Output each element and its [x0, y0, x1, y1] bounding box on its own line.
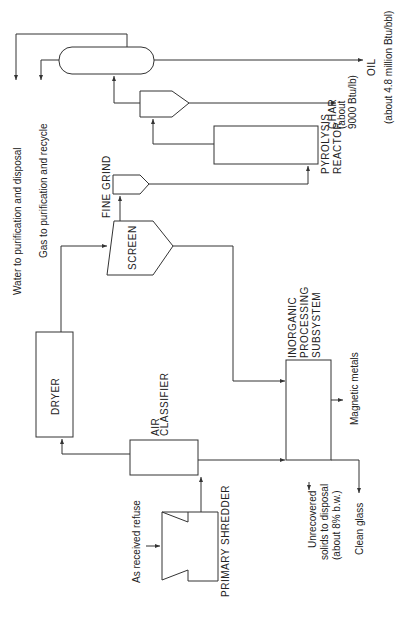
- screen-to-inorganic-line: [173, 246, 285, 381]
- inorganic-label-1: INORGANIC: [287, 297, 298, 358]
- unrecovered-label-1: Unrecovered: [307, 491, 318, 548]
- clean-glass-label: Clean glass: [354, 503, 365, 555]
- oil-separator-vessel: [59, 47, 154, 74]
- oil-label-2: (about 4.8 million Btu/bbl): [383, 11, 394, 124]
- char-label-3: 9000 Btu/lb): [347, 75, 358, 129]
- inorganic-label-3: SUBSYSTEM: [311, 292, 322, 358]
- fine-grind-label: FINE GRIND: [101, 155, 112, 218]
- primary-shredder: [162, 512, 218, 581]
- air-classifier: [130, 440, 198, 475]
- reactor-to-char-line: [153, 119, 214, 144]
- unrecovered-label-3: (about 8% b.w.): [331, 491, 342, 560]
- char-label-2: (about: [336, 100, 347, 129]
- fine-grind-unit: [113, 175, 149, 194]
- gas-stream-label: Gas to purification and recycle: [38, 123, 49, 258]
- gas-stream-line: [41, 60, 59, 80]
- air-classifier-label-2: CLASSIFIER: [159, 373, 170, 436]
- inorganic-label-2: PROCESSING: [299, 286, 310, 358]
- screen-unit: [107, 221, 173, 275]
- inorganic-processing-subsystem: [286, 360, 331, 460]
- magnetic-metals-label: Magnetic metals: [349, 352, 360, 425]
- pyrolysis-reactor: [214, 126, 318, 164]
- char-separator: [140, 91, 189, 117]
- feed-label: As received refuse: [131, 500, 142, 583]
- clean-glass-line: [331, 460, 359, 493]
- grind-to-reactor-line: [149, 166, 308, 184]
- classifier-to-dryer-line: [62, 439, 130, 454]
- dryer-label: DRYER: [50, 378, 61, 415]
- dryer-to-screen-line: [61, 246, 107, 332]
- primary-shredder-label: PRIMARY SHREDDER: [220, 485, 231, 597]
- water-stream-label: Water to purification and disposal: [12, 148, 23, 296]
- char-to-vessel-line: [114, 76, 140, 103]
- process-flow-diagram: Water to purification and disposal Gas t…: [0, 0, 396, 623]
- screen-label: SCREEN: [127, 225, 138, 270]
- unrecovered-label-2: solids to disposal: [319, 484, 330, 560]
- oil-label-1: OIL: [366, 58, 377, 76]
